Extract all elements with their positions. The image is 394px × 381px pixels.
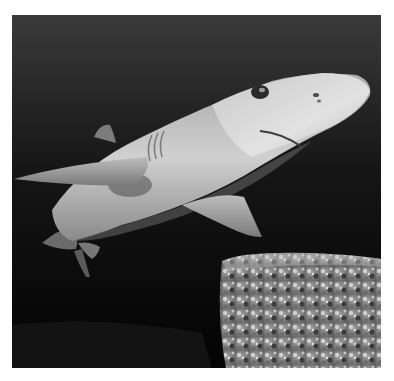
shark-photo	[12, 15, 381, 368]
eye	[251, 85, 269, 99]
rock	[220, 253, 381, 368]
nostril	[313, 93, 319, 97]
eye-highlight	[259, 88, 265, 92]
nostril-flap	[317, 100, 321, 103]
photo-canvas	[12, 15, 381, 368]
